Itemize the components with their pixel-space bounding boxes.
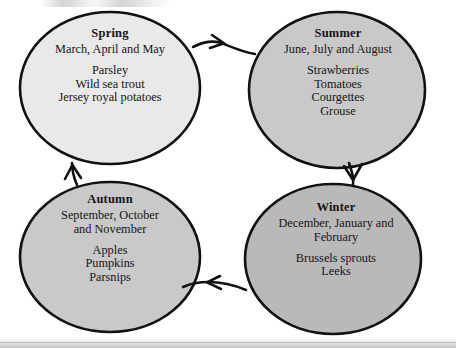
node-ellipse-summer xyxy=(249,12,425,168)
seasonal-cycle-diagram: Spring March, April and May Parsley Wild… xyxy=(0,0,456,348)
cycle-canvas xyxy=(0,0,456,348)
node-ellipse-autumn xyxy=(20,182,200,332)
node-ellipse-winter xyxy=(245,184,421,334)
node-ellipse-spring xyxy=(20,12,200,164)
arrow-autumn-to-spring xyxy=(65,163,81,185)
scan-artifact-bottom-line xyxy=(0,342,456,343)
arrow-spring-to-summer xyxy=(193,35,255,54)
